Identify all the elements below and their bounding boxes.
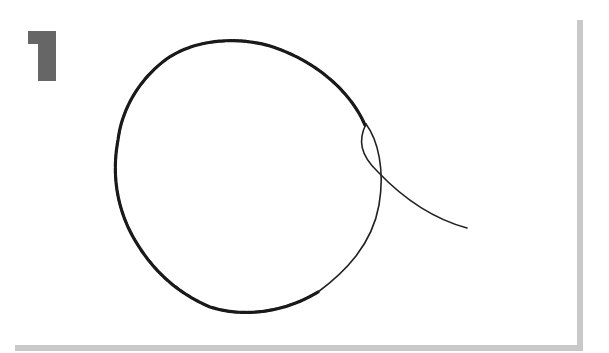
wire-strand-inner bbox=[318, 124, 381, 292]
wire-loop-icon bbox=[115, 41, 365, 313]
wire-loop-illustration bbox=[0, 0, 609, 353]
